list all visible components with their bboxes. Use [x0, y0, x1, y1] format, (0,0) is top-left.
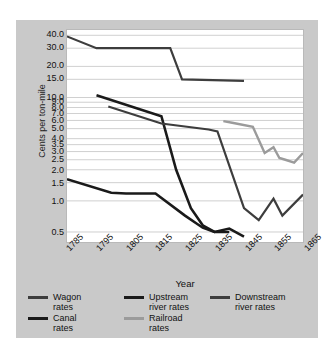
plot-area	[66, 29, 304, 243]
y-tick-label: 2.5	[18, 155, 64, 164]
legend-label: Canal rates	[53, 313, 77, 333]
series-lines	[67, 30, 303, 242]
legend-entry[interactable]: Wagon rates	[28, 292, 81, 312]
legend-label: Upstream river rates	[149, 292, 189, 312]
legend-entry[interactable]: Upstream river rates	[124, 292, 189, 312]
y-tick-label: 1.5	[18, 179, 64, 188]
series-line-railroad-rates	[223, 121, 303, 162]
y-tick-label: 2.0	[18, 166, 64, 175]
y-tick-label: 15.0	[18, 74, 64, 83]
chart-legend: Wagon ratesUpstream river ratesDownstrea…	[28, 292, 310, 334]
series-line-downstream-river-rates	[108, 106, 303, 220]
legend-swatch	[124, 296, 144, 299]
series-line-canal-rates	[67, 179, 229, 232]
legend-label: Wagon rates	[53, 292, 81, 312]
legend-entry[interactable]: Railroad rates	[124, 313, 183, 333]
legend-row: Canal ratesRailroad rates	[28, 313, 310, 333]
legend-swatch	[124, 317, 144, 320]
y-tick-label: 20.0	[18, 61, 64, 70]
legend-swatch	[28, 317, 48, 320]
legend-label: Downstream river rates	[235, 292, 286, 312]
legend-label: Railroad rates	[149, 313, 183, 333]
y-tick-label: 40.0	[18, 30, 64, 39]
y-axis-tick-labels: 40.030.020.015.010.09.08.07.06.05.04.03.…	[16, 29, 64, 243]
legend-row: Wagon ratesUpstream river ratesDownstrea…	[28, 292, 310, 312]
legend-swatch	[210, 296, 230, 299]
legend-entry[interactable]: Canal rates	[28, 313, 77, 333]
x-tick-label: 1865	[302, 232, 323, 253]
x-axis-tick-labels: 178517951805181518251835184518551865	[66, 244, 304, 280]
x-axis-title: Year	[66, 278, 304, 289]
series-line-upstream-river-rates	[97, 95, 245, 236]
series-line-wagon-rates	[67, 36, 244, 80]
y-tick-label: 30.0	[18, 43, 64, 52]
legend-swatch	[28, 296, 48, 299]
y-tick-label: 0.5	[18, 228, 64, 237]
y-tick-label: 1.0	[18, 197, 64, 206]
y-tick-label: 5.0	[18, 124, 64, 133]
legend-entry[interactable]: Downstream river rates	[210, 292, 286, 312]
chart-figure: Cents per ton-mile 40.030.020.015.010.09…	[16, 20, 318, 338]
